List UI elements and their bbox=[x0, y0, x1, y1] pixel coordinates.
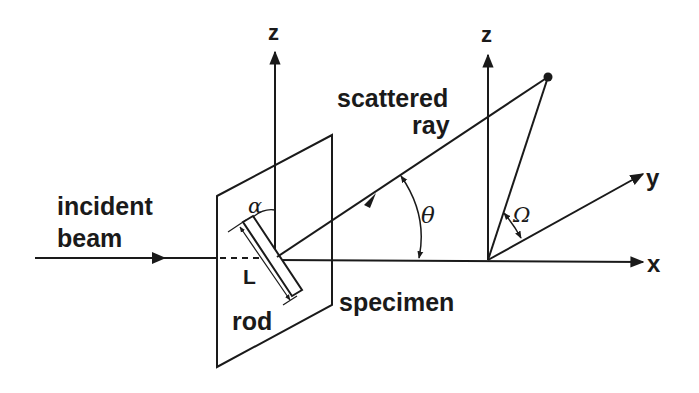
scattering-geometry-diagram: z x α L θ z y Ω incident beam scat bbox=[0, 0, 699, 393]
z-axis-left: z bbox=[268, 20, 279, 258]
length-label: L bbox=[243, 265, 256, 288]
specimen-label: specimen bbox=[339, 288, 454, 316]
rod-tick-top bbox=[228, 220, 246, 232]
scattered-ray-label-line2: ray bbox=[412, 111, 450, 139]
theta-angle-arc bbox=[401, 176, 421, 258]
incident-beam-label-line2: beam bbox=[57, 224, 122, 252]
y-axis-label: y bbox=[646, 164, 660, 191]
x-axis-label: x bbox=[647, 250, 661, 277]
rod-tick-bottom bbox=[283, 296, 297, 305]
scattered-ray-label-line1: scattered bbox=[337, 84, 448, 112]
omega-label: Ω bbox=[512, 203, 530, 227]
alpha-label: α bbox=[248, 194, 262, 218]
incident-beam bbox=[35, 252, 218, 264]
z-axis-right: z bbox=[481, 22, 492, 260]
incident-beam-arrow-icon bbox=[152, 252, 166, 264]
theta-label: θ bbox=[421, 202, 435, 228]
rod-label: rod bbox=[232, 307, 272, 335]
z-axis-left-label: z bbox=[268, 20, 279, 45]
incident-beam-label-line1: incident bbox=[57, 192, 154, 220]
x-axis: x bbox=[277, 250, 661, 277]
z-axis-right-label: z bbox=[481, 22, 492, 47]
